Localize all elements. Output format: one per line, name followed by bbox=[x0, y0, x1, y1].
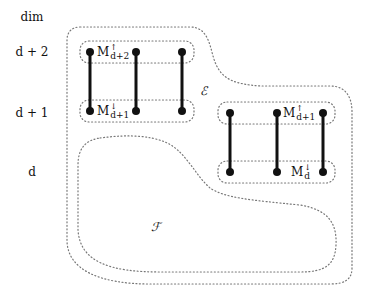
label-m-down-d1: M↓d+1 bbox=[97, 103, 129, 119]
diagram-canvas bbox=[0, 0, 371, 304]
region-e-boundary bbox=[67, 27, 352, 284]
axis-level-d2: d + 2 bbox=[16, 46, 49, 58]
label-m-down-d: M↓d bbox=[291, 164, 311, 180]
region-f-boundary bbox=[78, 136, 336, 272]
axis-title: dim bbox=[21, 11, 44, 23]
region-e-label: ℰ bbox=[200, 85, 207, 97]
axis-level-d1: d + 1 bbox=[16, 107, 49, 119]
region-f-label: ℱ bbox=[151, 221, 160, 233]
label-m-up-d1: M↑d+1 bbox=[283, 105, 315, 121]
axis-level-d: d bbox=[28, 166, 36, 178]
label-m-up-d2: M↑d+2 bbox=[97, 44, 129, 60]
